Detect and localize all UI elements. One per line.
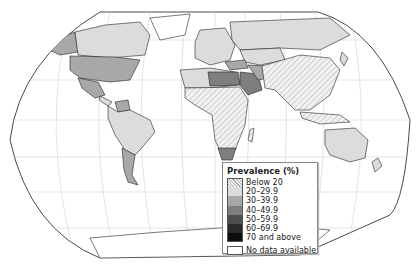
legend-item-60-69: 60–69.9	[227, 224, 313, 233]
legend-item-70-above: 70 and above	[227, 233, 313, 242]
region-alaska	[45, 32, 78, 55]
map-legend: Prevalence (%) Below 20 20–29.9 30–39.9 …	[222, 162, 318, 254]
region-libya-egypt	[208, 72, 240, 86]
legend-swatch	[227, 187, 243, 196]
legend-swatch-hatched	[227, 178, 243, 187]
region-usa	[70, 56, 140, 82]
legend-item-30-39: 30–39.9	[227, 196, 313, 205]
legend-swatch	[227, 233, 243, 242]
world-map	[0, 0, 419, 265]
legend-item-below-20: Below 20	[227, 178, 313, 187]
legend-swatch	[227, 206, 243, 215]
legend-swatch	[227, 215, 243, 224]
legend-swatch	[227, 196, 243, 205]
legend-swatch-empty	[227, 246, 243, 255]
legend-item-no-data: No data available	[227, 246, 313, 255]
legend-item-40-49: 40–49.9	[227, 206, 313, 215]
legend-title: Prevalence (%)	[227, 166, 313, 176]
legend-item-20-29: 20–29.9	[227, 187, 313, 196]
legend-item-50-59: 50–59.9	[227, 215, 313, 224]
legend-swatch	[227, 224, 243, 233]
